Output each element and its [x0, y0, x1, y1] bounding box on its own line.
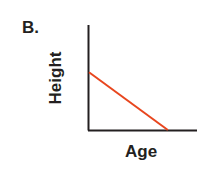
- chart-plot: [0, 0, 211, 176]
- data-line: [89, 72, 168, 130]
